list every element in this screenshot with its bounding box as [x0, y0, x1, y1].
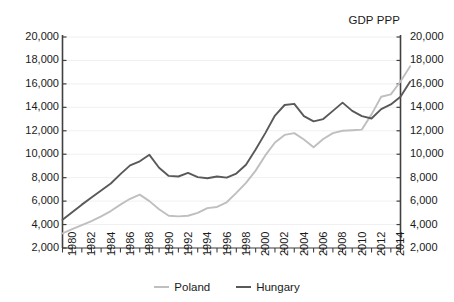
y-axis-label-left: 4,000	[31, 219, 59, 230]
data-series	[63, 66, 411, 233]
series-line-poland	[63, 66, 411, 233]
y-axis-label-right: 4,000	[410, 219, 438, 230]
y-axis-label-left: 14,000	[25, 101, 59, 112]
y-axis-label-left: 2,000	[31, 242, 59, 253]
axis-lines	[63, 35, 401, 248]
legend-swatch-icon	[236, 286, 251, 288]
axis-ticks	[63, 37, 401, 253]
legend-label: Poland	[174, 281, 210, 293]
y-axis-label-right: 18,000	[410, 54, 444, 65]
y-axis-label-right: 2,000	[410, 242, 438, 253]
gdp-ppp-line-chart: GDP PPP 20,00018,00016,00014,00012,00010…	[0, 0, 454, 302]
plot-area	[0, 0, 454, 302]
x-axis-label: 2004	[299, 232, 310, 256]
x-axis-label: 1982	[86, 232, 97, 256]
y-axis-label-left: 6,000	[31, 195, 59, 206]
y-axis-label-left: 10,000	[25, 148, 59, 159]
y-axis-label-right: 16,000	[410, 78, 444, 89]
y-axis-label-right: 6,000	[410, 195, 438, 206]
y-axis-label-right: 20,000	[410, 31, 444, 42]
y-axis-label-right: 10,000	[410, 148, 444, 159]
gridlines	[63, 37, 401, 248]
x-axis-label: 2000	[260, 232, 271, 256]
x-axis-label: 2014	[395, 232, 406, 256]
x-axis-label: 2012	[376, 232, 387, 256]
y-axis-label-left: 16,000	[25, 78, 59, 89]
y-axis-label-right: 14,000	[410, 101, 444, 112]
x-axis-label: 1996	[222, 232, 233, 256]
x-axis-label: 2002	[279, 232, 290, 256]
x-axis-label: 1980	[67, 232, 78, 256]
legend-item-hungary[interactable]: Hungary	[236, 281, 299, 293]
legend-swatch-icon	[154, 286, 169, 288]
x-axis-label: 1984	[106, 232, 117, 256]
series-line-hungary	[63, 82, 411, 220]
y-axis-label-left: 8,000	[31, 172, 59, 183]
x-axis-label: 1988	[144, 232, 155, 256]
y-axis-label-right: 8,000	[410, 172, 438, 183]
x-axis-label: 1994	[202, 232, 213, 256]
chart-legend: PolandHungary	[0, 281, 454, 293]
chart-title: GDP PPP	[348, 14, 400, 26]
y-axis-label-left: 12,000	[25, 125, 59, 136]
x-axis-label: 1998	[241, 232, 252, 256]
x-axis-label: 2010	[357, 232, 368, 256]
y-axis-label-right: 12,000	[410, 125, 444, 136]
y-axis-label-left: 18,000	[25, 54, 59, 65]
legend-item-poland[interactable]: Poland	[154, 281, 210, 293]
legend-label: Hungary	[256, 281, 299, 293]
x-axis-label: 1990	[164, 232, 175, 256]
y-axis-label-left: 20,000	[25, 31, 59, 42]
x-axis-label: 2006	[318, 232, 329, 256]
x-axis-label: 1992	[183, 232, 194, 256]
x-axis-label: 2008	[337, 232, 348, 256]
x-axis-label: 1986	[125, 232, 136, 256]
